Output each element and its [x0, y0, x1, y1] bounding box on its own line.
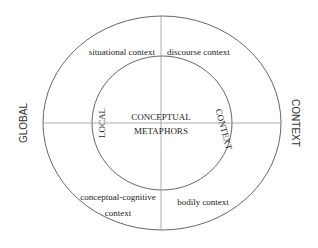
quadrant-bottom-left-label-line2: context [105, 208, 132, 218]
quadrant-top-right-label: discourse context [167, 47, 230, 57]
quadrant-top-left-label: situational context [89, 47, 156, 57]
quadrant-bottom-left-label-line1: conceptual-cognitive [80, 192, 155, 202]
center-label-line1: CONCEPTUAL [131, 112, 191, 122]
quadrant-bottom-right-label: bodily context [177, 197, 229, 207]
outer-right-label: CONTEXT [290, 99, 301, 147]
outer-left-label: GLOBAL [18, 103, 29, 143]
context-diagram: situational context discourse context co… [0, 0, 318, 248]
inner-left-label: LOCAL [97, 108, 107, 138]
center-label-line2: METAPHORS [134, 126, 188, 136]
